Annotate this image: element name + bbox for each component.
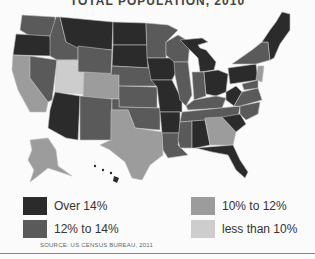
state-washington [20, 15, 56, 36]
state-arizona [48, 92, 80, 140]
state-ohio [204, 70, 228, 96]
legend-swatch-10-to-12 [191, 197, 215, 215]
state-colorado [83, 72, 119, 99]
legend-label-over-14: Over 14% [54, 199, 107, 213]
state-oregon [13, 34, 52, 56]
state-florida [196, 145, 248, 178]
legend-over-14: Over 14% [23, 197, 107, 215]
legend-label-less-than-10: less than 10% [222, 222, 297, 236]
state-iowa [147, 58, 177, 80]
legend-less-than-10: less than 10% [191, 220, 297, 238]
state-alaska [28, 138, 72, 182]
state-new-mexico [80, 96, 112, 140]
state-new-jersey [256, 66, 264, 82]
legend-label-10-to-12: 10% to 12% [222, 199, 287, 213]
source-note: SOURCE: US CENSUS BUREAU, 2011 [40, 242, 153, 248]
state-mississippi [178, 121, 192, 148]
state-wyoming [78, 46, 112, 75]
legend-10-to-12: 10% to 12% [191, 197, 287, 215]
state-indiana [192, 72, 206, 100]
legend-swatch-over-14 [23, 197, 47, 215]
legend-swatch-12-to-14 [23, 220, 47, 238]
state-hawaii [94, 165, 119, 183]
state-wisconsin [166, 35, 190, 62]
bottom-divider [0, 253, 315, 254]
state-kansas [119, 86, 157, 108]
us-choropleth-map [0, 0, 315, 210]
legend-label-12-to-14: 12% to 14% [54, 222, 119, 236]
state-arkansas [160, 112, 180, 133]
state-new-york [232, 42, 270, 64]
legend-12-to-14: 12% to 14% [23, 220, 119, 238]
legend-swatch-less-than-10 [191, 220, 215, 238]
state-south-dakota [112, 45, 148, 68]
state-north-dakota [113, 22, 147, 45]
